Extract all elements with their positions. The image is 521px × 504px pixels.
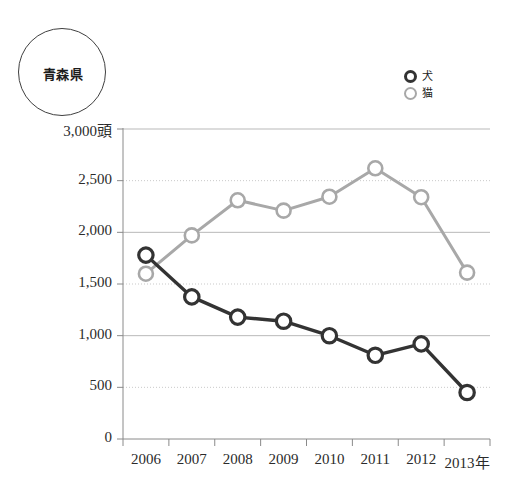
x-axis-label: 2013年: [427, 451, 507, 472]
chart-container: 青森県 犬 猫 05001,0001,5002,0002,5003,000頭 2…: [0, 0, 521, 504]
data-point-cat: [139, 267, 153, 281]
data-point-cat: [414, 190, 428, 204]
data-point-cat: [322, 190, 336, 204]
plot-area: [0, 0, 521, 504]
y-axis-label: 3,000頭: [63, 119, 112, 140]
data-point-dog: [231, 310, 245, 324]
y-axis-label: 1,000: [78, 326, 112, 343]
series-line-dog: [146, 255, 467, 392]
data-point-dog: [276, 314, 290, 328]
data-point-dog: [414, 337, 428, 351]
data-point-cat: [185, 228, 199, 242]
data-point-dog: [322, 329, 336, 343]
y-axis-label: 1,500: [78, 274, 112, 291]
data-point-cat: [460, 266, 474, 280]
y-axis-label: 2,000: [78, 222, 112, 239]
data-point-cat: [277, 204, 291, 218]
series-line-cat: [146, 168, 467, 273]
data-point-dog: [185, 290, 199, 304]
data-point-dog: [460, 385, 474, 399]
y-axis-label: 500: [90, 377, 113, 394]
data-point-dog: [139, 248, 153, 262]
data-point-dog: [368, 348, 382, 362]
y-axis-label: 2,500: [78, 171, 112, 188]
data-point-cat: [368, 161, 382, 175]
data-point-cat: [231, 193, 245, 207]
y-axis-label: 0: [105, 429, 113, 446]
